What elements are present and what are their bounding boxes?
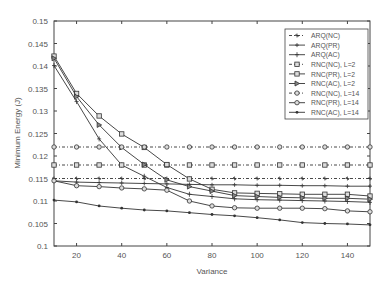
legend: ARQ(NC)ARQ(PR)ARQ(AC)RNC(NC), L=2RNC(PR)… (285, 29, 368, 119)
series-3 (52, 163, 372, 167)
y-tick-label: 0.1 (37, 242, 49, 251)
x-tick-label: 80 (208, 251, 217, 260)
x-tick-label: 100 (250, 251, 264, 260)
legend-label: RNC(AC), L=14 (311, 109, 359, 117)
x-tick-label: 40 (117, 251, 126, 260)
y-axis-label: Minimum Energy (J) (13, 97, 22, 169)
y-tick-label: 0.145 (28, 40, 49, 49)
legend-label: RNC(PR), L=14 (311, 99, 359, 107)
y-tick-label: 0.115 (29, 175, 49, 184)
x-tick-label: 140 (341, 251, 355, 260)
y-tick-label: 0.105 (28, 220, 49, 229)
legend-label: RNC(AC), L=2 (311, 80, 355, 88)
legend-label: RNC(NC), L=14 (311, 90, 359, 98)
y-tick-label: 0.125 (28, 130, 49, 139)
x-tick-label: 20 (72, 251, 81, 260)
y-tick-label: 0.135 (28, 85, 49, 94)
chart: 20406080100120140 0.10.1050.110.1150.120… (0, 0, 386, 286)
x-tick-label: 60 (162, 251, 171, 260)
y-tick-label: 0.11 (33, 197, 49, 206)
y-tick-label: 0.15 (32, 17, 48, 26)
legend-label: RNC(NC), L=2 (311, 61, 356, 69)
x-tick-label: 120 (296, 251, 310, 260)
series-6 (52, 145, 372, 149)
legend-label: ARQ(NC) (311, 32, 340, 40)
y-tick-label: 0.12 (32, 152, 48, 161)
y-tick-label: 0.14 (32, 62, 48, 71)
legend-label: ARQ(AC) (311, 51, 340, 59)
legend-label: RNC(PR), L=2 (311, 71, 355, 79)
y-tick-label: 0.13 (32, 107, 48, 116)
legend-label: ARQ(PR) (311, 42, 340, 50)
x-axis-label: Variance (197, 267, 229, 276)
